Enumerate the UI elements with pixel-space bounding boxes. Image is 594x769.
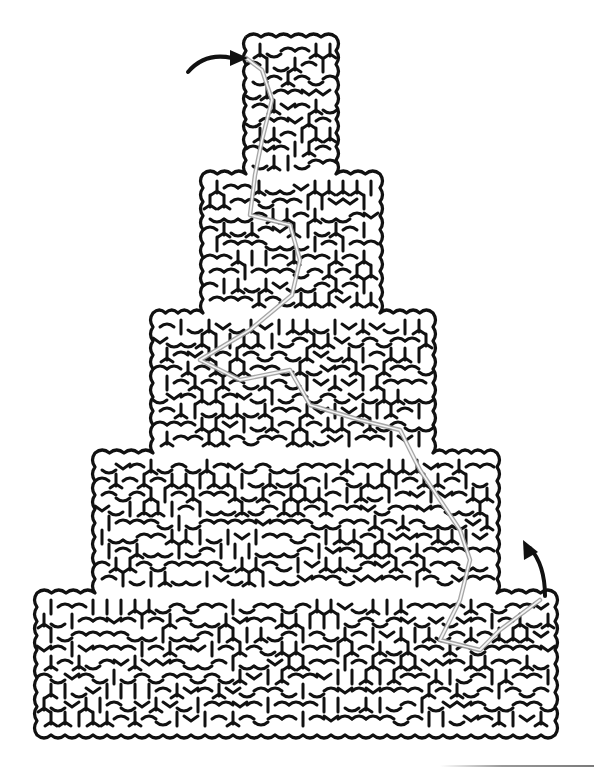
maze-wall-segment: [231, 348, 243, 362]
maze-wall-segment: [159, 572, 171, 586]
maze-wall-segment: [236, 558, 248, 572]
maze-wall-segment: [409, 656, 421, 670]
maze-wall-segment: [282, 694, 296, 697]
maze-wall-segment: [114, 660, 128, 665]
maze-wall-segment: [361, 562, 375, 565]
maze-wall-segment: [424, 576, 438, 579]
maze-wall-segment: [295, 166, 309, 169]
maze-wall-segment: [224, 269, 238, 272]
maze-wall-segment: [309, 82, 323, 85]
maze-wall-segment: [149, 646, 163, 649]
maze-wall-segment: [280, 247, 294, 250]
maze-wall-segment: [321, 394, 335, 397]
maze-wall-segment: [387, 652, 401, 655]
maze-wall-segment: [520, 694, 534, 697]
maze-wall-segment: [255, 628, 267, 642]
maze-wall-segment: [207, 562, 221, 565]
maze-wall-segment: [352, 688, 366, 691]
maze-wall-segment: [413, 320, 425, 334]
maze-wall-segment: [116, 520, 130, 523]
maze-wall-segment: [429, 646, 443, 649]
maze-wall-segment: [326, 492, 340, 495]
maze-wall-segment: [534, 688, 548, 691]
maze-wall-segment: [355, 488, 367, 502]
maze-wall-segment: [310, 660, 324, 663]
maze-wall-segment: [478, 688, 492, 691]
maze-wall-segment: [201, 460, 213, 474]
maze-wall-segment: [151, 534, 165, 537]
maze-wall-segment: [189, 376, 201, 390]
maze-wall-segment: [266, 269, 280, 272]
maze-wall-segment: [423, 684, 435, 698]
maze-wall-segment: [116, 464, 130, 469]
maze-wall-segment: [279, 400, 293, 403]
maze-wall-segment: [303, 646, 317, 649]
maze-wall-segment: [121, 646, 135, 649]
maze-wall-segment: [244, 352, 258, 355]
maze-wall-segment: [246, 124, 260, 127]
maze-wall-segment: [380, 632, 394, 637]
maze-wall-segment: [322, 219, 336, 222]
maze-wall-segment: [401, 674, 415, 677]
maze-wall-segment: [316, 146, 330, 149]
maze-wall-segment: [326, 526, 340, 529]
maze-wall-segment: [431, 562, 445, 565]
maze-wall-segment: [100, 660, 114, 663]
maze-wall-segment: [354, 576, 368, 581]
maze-wall-segment: [329, 199, 343, 204]
maze-wall-segment: [352, 660, 366, 663]
maze-wall-segment: [465, 600, 477, 614]
maze-wall-segment: [156, 722, 170, 725]
maze-wall-segment: [335, 366, 349, 369]
maze-wall-segment: [263, 506, 277, 509]
maze-wall-segment: [240, 666, 254, 669]
maze-walls: [35, 34, 558, 738]
maze-wall-segment: [415, 646, 429, 649]
maze-wall-segment: [150, 698, 162, 712]
maze-wall-segment: [223, 394, 237, 397]
maze-wall-segment: [205, 624, 219, 627]
maze-wall-segment: [534, 632, 548, 637]
maze-wall-segment: [233, 702, 247, 707]
maze-wall-segment: [473, 568, 487, 571]
maze-wall-segment: [397, 516, 409, 530]
maze-wall-segment: [256, 520, 270, 525]
maze-wall-segment: [343, 227, 357, 230]
maze-wall-segment: [51, 646, 65, 649]
maze-wall-segment: [219, 680, 233, 683]
maze-wall-segment: [171, 684, 183, 698]
maze-wall-segment: [459, 512, 473, 515]
maze-wall-segment: [417, 534, 431, 537]
maze-wall-segment: [160, 324, 174, 327]
maze-wall-segment: [265, 366, 279, 369]
maze-wall-segment: [364, 213, 378, 218]
maze-wall-segment: [245, 289, 259, 292]
maze-wall-segment: [86, 666, 100, 669]
maze-wall-segment: [450, 660, 464, 663]
maze-wall-segment: [471, 652, 485, 655]
maze-wall-segment: [408, 604, 422, 607]
maze-wall-segment: [172, 582, 186, 585]
maze-wall-segment: [328, 436, 342, 441]
maze-wall-segment: [288, 90, 302, 93]
maze-wall-segment: [166, 474, 178, 488]
maze-wall-segment: [217, 432, 229, 446]
maze-wall-segment: [506, 604, 520, 607]
maze-wall-segment: [436, 688, 450, 691]
maze-wall-segment: [232, 251, 244, 265]
maze-wall-segment: [521, 628, 533, 642]
maze-wall-segment: [202, 380, 216, 383]
maze-wall-segment: [295, 293, 307, 307]
maze-wall-segment: [137, 562, 151, 565]
maze-wall-segment: [210, 269, 224, 272]
maze-wall-segment: [240, 694, 254, 697]
maze-wall-segment: [107, 618, 121, 623]
maze-wall-segment: [473, 534, 487, 539]
maze-wall-segment: [200, 548, 214, 551]
maze-wall-segment: [346, 642, 358, 656]
maze-wall-segment: [292, 474, 304, 488]
maze-wall-segment: [309, 293, 321, 307]
maze-wall-segment: [287, 432, 299, 446]
maze-wall-segment: [302, 62, 316, 65]
maze-wall-segment: [471, 702, 485, 705]
